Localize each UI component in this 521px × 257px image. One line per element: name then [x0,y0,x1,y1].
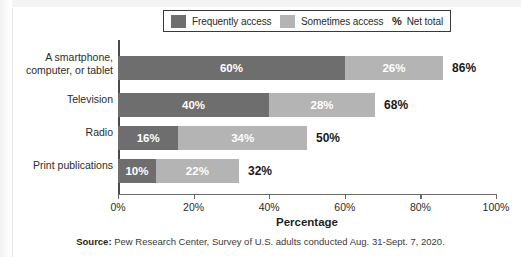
legend-item-sometimes-access: Sometimes access [280,15,383,28]
category-label-line: computer, or tablet [0,64,113,77]
category-label-line: Television [0,93,113,106]
bar-segment-frequently: 10% [118,159,156,183]
bar-segment-frequently: 40% [118,93,269,117]
bar-segment-value-label: 22% [186,165,209,177]
legend-label-frequently-access: Frequently access [192,16,271,27]
scan-edge-top [0,0,521,7]
percent-symbol-icon: % [392,15,402,27]
bar-segment-sometimes: 22% [156,159,239,183]
legend-swatch-frequently-access [171,15,186,28]
source-prefix: Source: [76,236,111,247]
category-label-line: A smartphone, [0,51,113,64]
category-label: Radio [0,126,113,139]
x-axis-tick [420,194,421,199]
category-label: Television [0,93,113,106]
bar-row: 16%34% [118,126,307,150]
category-label: A smartphone,computer, or tablet [0,51,113,76]
bar-row: 10%22% [118,159,239,183]
bar-segment-frequently: 60% [118,56,345,80]
net-total-label: 50% [316,126,340,150]
legend-item-net-total: % Net total [392,15,443,27]
legend-label-sometimes-access: Sometimes access [301,16,383,27]
source-text: Pew Research Center, Survey of U.S. adul… [112,236,445,247]
bar-segment-value-label: 16% [137,132,160,144]
x-axis-tick [269,194,270,199]
x-axis-title: Percentage [118,216,496,228]
chart-legend: Frequently access Sometimes access % Net… [163,10,451,32]
source-note: Source: Pew Research Center, Survey of U… [0,236,521,247]
bar-segment-sometimes: 28% [269,93,375,117]
bar-segment-value-label: 28% [311,99,334,111]
x-axis-tick-label: 100% [483,201,510,213]
x-axis-tick [118,194,119,199]
legend-item-frequently-access: Frequently access [171,15,271,28]
bar-row: 40%28% [118,93,375,117]
legend-swatch-sometimes-access [280,15,295,28]
bar-segment-value-label: 60% [220,62,243,74]
x-axis-tick-label: 80% [410,201,431,213]
category-label-line: Print publications [0,159,113,172]
stacked-bar-chart: A smartphone,computer, or tabletTelevisi… [0,40,521,215]
x-axis-tick-label: 60% [334,201,355,213]
x-axis-line [118,194,496,195]
x-axis-tick-label: 40% [259,201,280,213]
bar-segment-frequently: 16% [118,126,178,150]
bar-row: 60%26% [118,56,443,80]
net-total-label: 32% [248,159,272,183]
bar-segment-sometimes: 34% [178,126,307,150]
category-label: Print publications [0,159,113,172]
x-axis-tick [345,194,346,199]
net-total-label: 68% [384,93,408,117]
x-axis-tick [496,194,497,199]
category-label-line: Radio [0,126,113,139]
bar-segment-value-label: 26% [382,62,405,74]
bar-segment-sometimes: 26% [345,56,443,80]
net-total-label: 86% [452,56,476,80]
chart-page: Frequently access Sometimes access % Net… [0,0,521,257]
legend-label-net-total: Net total [407,16,443,27]
bar-segment-value-label: 10% [125,165,148,177]
x-axis-tick-label: 20% [183,201,204,213]
x-axis-tick [194,194,195,199]
category-axis-labels: A smartphone,computer, or tabletTelevisi… [0,40,113,195]
bar-segment-value-label: 34% [231,132,254,144]
bar-segment-value-label: 40% [182,99,205,111]
x-axis-tick-label: 0% [110,201,125,213]
plot-area: 60%26%86%40%28%68%16%34%50%10%22%32% [118,40,496,195]
